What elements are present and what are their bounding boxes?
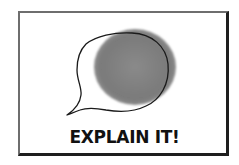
caption-text: EXPLAIN IT! [0, 127, 239, 147]
gray-circle-icon [94, 29, 176, 105]
